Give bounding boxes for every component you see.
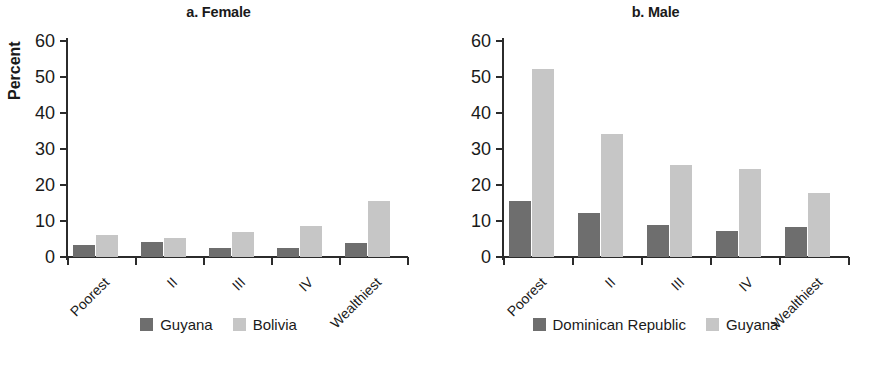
x-axis-tick — [779, 257, 781, 265]
bar — [164, 238, 186, 257]
bar — [532, 69, 554, 257]
x-axis-category-label: II — [601, 274, 618, 291]
bar-group: Wealthiest — [339, 41, 407, 257]
bar-group: II — [135, 41, 203, 257]
bar-group: Poorest — [67, 41, 135, 257]
x-axis-tick — [203, 257, 205, 265]
bar — [300, 226, 322, 257]
panel-female-y-axis-label: Percent — [6, 41, 24, 100]
bar — [670, 165, 692, 257]
x-axis-tick — [271, 257, 273, 265]
panel-male-title: b. Male — [437, 4, 874, 20]
legend-swatch-icon — [233, 318, 246, 331]
bar — [785, 227, 807, 257]
panel-male: b. Male Percent 0102030405060 PoorestIII… — [437, 0, 874, 340]
panel-male-plot-area: 0102030405060 PoorestIIIIIIVWealthiest — [503, 41, 848, 257]
bar — [509, 201, 531, 257]
x-axis-tick — [135, 257, 137, 265]
legend-item: Guyana — [706, 317, 779, 332]
bar-group: II — [572, 41, 641, 257]
bar-group: IV — [271, 41, 339, 257]
y-axis-tick: 50 — [60, 76, 67, 78]
legend-item: Bolivia — [233, 317, 297, 332]
x-axis-category-label: Poorest — [503, 274, 548, 319]
y-axis-tick: 20 — [496, 184, 503, 186]
x-axis-category-label: Poorest — [67, 274, 112, 319]
x-axis-tick — [572, 257, 574, 265]
bar — [368, 201, 390, 257]
x-axis-tick — [407, 257, 409, 265]
y-axis-tick-label: 30 — [35, 139, 55, 160]
y-axis-tick-label: 10 — [471, 211, 491, 232]
x-axis-category-label: III — [229, 274, 249, 294]
panel-female-title: a. Female — [0, 4, 437, 20]
y-axis-tick: 50 — [496, 76, 503, 78]
bar — [739, 169, 761, 257]
x-axis-tick — [710, 257, 712, 265]
bar-group: III — [203, 41, 271, 257]
y-axis-tick: 0 — [60, 256, 67, 258]
y-axis-tick-label: 10 — [35, 211, 55, 232]
bar — [73, 245, 95, 257]
bar — [578, 213, 600, 257]
legend-item: Dominican Republic — [533, 317, 686, 332]
bar-group: IV — [710, 41, 779, 257]
legend-swatch-icon — [533, 318, 546, 331]
bar-group: Wealthiest — [779, 41, 848, 257]
x-axis-category-label: III — [667, 274, 687, 294]
x-axis-category-label: II — [163, 274, 180, 291]
figure-two-panel-bar-chart: a. Female Percent 0102030405060 PoorestI… — [0, 0, 874, 381]
bar-group: Poorest — [503, 41, 572, 257]
bar — [601, 134, 623, 257]
bar — [277, 248, 299, 257]
x-axis-category-label: IV — [296, 274, 317, 295]
y-axis-tick: 30 — [496, 148, 503, 150]
bar — [96, 235, 118, 257]
legend-label: Bolivia — [253, 317, 297, 332]
y-axis-tick-label: 50 — [471, 67, 491, 88]
x-axis-tick — [848, 257, 850, 265]
y-axis-tick-label: 40 — [471, 103, 491, 124]
x-axis-tick — [67, 257, 69, 265]
legend-item: Guyana — [140, 317, 213, 332]
y-axis-tick: 0 — [496, 256, 503, 258]
x-axis-tick — [503, 257, 505, 265]
bar — [647, 225, 669, 257]
bar — [716, 231, 738, 257]
y-axis-tick-label: 20 — [471, 175, 491, 196]
y-axis-tick-label: 30 — [471, 139, 491, 160]
y-axis-tick-label: 60 — [35, 31, 55, 52]
y-axis-tick-label: 40 — [35, 103, 55, 124]
legend-swatch-icon — [140, 318, 153, 331]
x-axis-tick — [641, 257, 643, 265]
y-axis-tick: 30 — [60, 148, 67, 150]
y-axis-tick-label: 0 — [481, 247, 491, 268]
y-axis-tick: 10 — [496, 220, 503, 222]
bar-group: III — [641, 41, 710, 257]
y-axis-tick-label: 20 — [35, 175, 55, 196]
y-axis-tick: 60 — [496, 40, 503, 42]
panel-female-legend: Guyana Bolivia — [0, 317, 437, 332]
y-axis-tick: 20 — [60, 184, 67, 186]
bar — [345, 243, 367, 257]
panel-female-plot-area: 0102030405060 PoorestIIIIIIVWealthiest — [67, 41, 407, 257]
legend-label: Guyana — [726, 317, 779, 332]
y-axis-tick: 60 — [60, 40, 67, 42]
legend-label: Guyana — [160, 317, 213, 332]
bar — [808, 193, 830, 257]
y-axis-tick-label: 0 — [45, 247, 55, 268]
y-axis-tick: 10 — [60, 220, 67, 222]
y-axis-tick-label: 60 — [471, 31, 491, 52]
legend-label: Dominican Republic — [553, 317, 686, 332]
y-axis-tick: 40 — [60, 112, 67, 114]
bar — [232, 232, 254, 257]
x-axis-category-label: IV — [735, 274, 756, 295]
bar — [209, 248, 231, 257]
bar — [141, 242, 163, 257]
y-axis-tick-label: 50 — [35, 67, 55, 88]
panel-female: a. Female Percent 0102030405060 PoorestI… — [0, 0, 437, 340]
legend-swatch-icon — [706, 318, 719, 331]
panel-male-legend: Dominican Republic Guyana — [437, 317, 874, 332]
x-axis-tick — [339, 257, 341, 265]
y-axis-tick: 40 — [496, 112, 503, 114]
